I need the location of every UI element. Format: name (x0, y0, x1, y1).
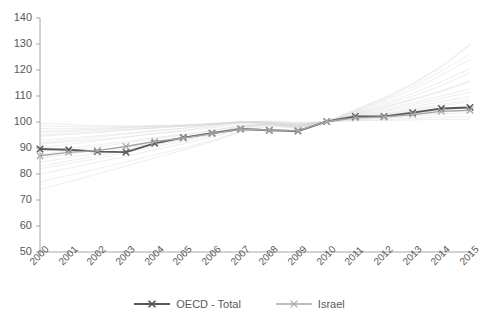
y-axis-tick-label: 100 (2, 116, 32, 127)
legend-label: Israel (318, 299, 345, 310)
y-axis-tick-label: 70 (2, 194, 32, 205)
background-series-line (40, 97, 470, 152)
background-series-group (40, 44, 470, 190)
y-axis-tick-label: 130 (2, 38, 32, 49)
legend-marker-icon (133, 298, 171, 310)
series-line (40, 110, 470, 156)
y-axis-tick-label: 120 (2, 64, 32, 75)
background-series-line (40, 54, 470, 181)
legend-entry[interactable]: Israel (275, 298, 345, 310)
y-axis-tick-label: 140 (2, 12, 32, 23)
legend-label: OECD - Total (176, 299, 241, 310)
legend-entry[interactable]: OECD - Total (133, 298, 241, 310)
y-axis-tick-label: 60 (2, 220, 32, 231)
chart-legend: OECD - TotalIsrael (0, 298, 478, 310)
y-axis-tick-label: 50 (2, 246, 32, 257)
y-axis-tick-label: 90 (2, 142, 32, 153)
legend-marker-icon (275, 298, 313, 310)
y-axis-tick-label: 110 (2, 90, 32, 101)
y-axis-tick-label: 80 (2, 168, 32, 179)
